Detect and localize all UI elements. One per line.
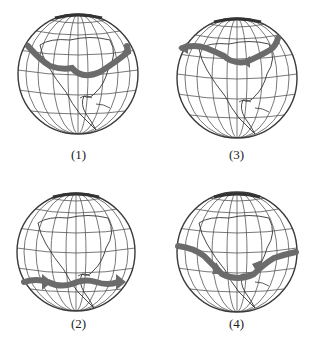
- globe-panel-4: (4): [158, 178, 315, 356]
- globe-panel-1: (1): [0, 0, 157, 178]
- wind-band-2: [24, 280, 118, 286]
- panel-label-4: (4): [158, 316, 315, 332]
- globe-panel-3: (3): [158, 0, 315, 178]
- panel-label-1: (1): [0, 147, 157, 163]
- panel-label-3: (3): [158, 147, 315, 163]
- globe-panel-2: (2): [0, 178, 157, 356]
- arrow-icon: [242, 56, 250, 68]
- pole-shading: [55, 15, 102, 18]
- wind-band-3: [182, 38, 278, 62]
- arrow-icon: [42, 274, 52, 290]
- arrow-icon: [116, 274, 126, 290]
- panel-label-2: (2): [0, 316, 157, 332]
